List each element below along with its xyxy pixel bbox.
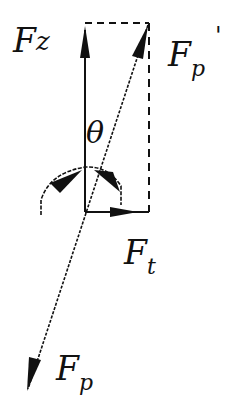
label-fz: Fz — [13, 24, 50, 57]
arrowhead-fz-icon — [80, 26, 90, 58]
arrowhead-ft-icon — [110, 207, 138, 217]
arc-arrowhead-right-icon — [94, 170, 120, 192]
label-theta: θ — [86, 118, 104, 148]
label-fp: Fp — [56, 352, 93, 385]
label-ft: Ft — [124, 236, 156, 269]
arrowhead-fp-prime-icon — [132, 25, 148, 59]
label-fp-prime: Fp' — [168, 38, 212, 71]
arrowhead-fp-icon — [27, 357, 41, 391]
vector-fp-line — [28, 25, 148, 389]
arc-arrowhead-left-icon — [50, 170, 82, 193]
